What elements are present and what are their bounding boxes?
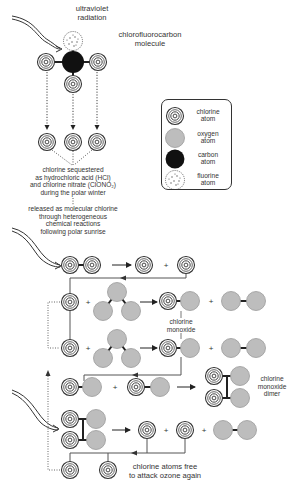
dimer-line1: chlorine: [252, 375, 292, 383]
legend-chlorine-line2: atom: [190, 115, 226, 122]
dimer-line2: monoxide: [252, 383, 292, 391]
chlorine-monoxide-label: chlorine monoxide: [156, 318, 206, 333]
cfc-molecule: [38, 32, 107, 93]
cfc-label: chlorofluorocarbon molecule: [104, 31, 196, 48]
svg-text:+: +: [86, 298, 91, 307]
released-line2: through heterogeneous: [23, 213, 123, 221]
sequestered-line1: chlorine sequestered: [23, 166, 123, 174]
released-line4: following polar sunrise: [23, 228, 123, 236]
freed-chlorine-atoms: [62, 462, 117, 479]
uv-label: ultraviolet radiation: [62, 5, 122, 22]
dimer-formation: +: [62, 367, 250, 408]
chlorine-atom-icon: [38, 54, 55, 71]
sequestered-line3: and chlorine nitrate (ClONO₂): [23, 181, 123, 189]
fluorine-atom-icon: [64, 32, 83, 51]
legend-oxygen-line2: atom: [190, 137, 226, 144]
released-line3: chemical reactions: [23, 220, 123, 228]
legend-item-chlorine: chlorine atom: [190, 108, 226, 123]
sequestered-line4: during the polar winter: [23, 189, 123, 197]
svg-text:+: +: [209, 344, 214, 353]
legend-carbon-line2: atom: [190, 158, 226, 165]
released-label: released as molecular chlorine through h…: [23, 205, 123, 235]
uv-radiation-arrow-2: [12, 390, 59, 432]
free-chlorine-label: chlorine atoms free to attack ozone agai…: [120, 463, 210, 480]
legend-carbon-line1: carbon: [190, 151, 226, 158]
sequestered-label: chlorine sequestered as hydrochloric aci…: [23, 166, 123, 196]
ozone-depletion-diagram: + + + + +: [0, 0, 292, 484]
carbon-atom-icon: [62, 51, 84, 73]
ozone-reaction-2: + +: [62, 330, 266, 368]
ozone-reaction-1: + +: [62, 283, 266, 321]
svg-text:+: +: [209, 297, 214, 306]
dimer-photolysis: + +: [62, 410, 257, 450]
svg-text:+: +: [202, 426, 207, 435]
svg-text:+: +: [86, 344, 91, 353]
svg-text:+: +: [164, 261, 169, 270]
legend-oxygen-line1: oxygen: [190, 130, 226, 137]
chlorine-atom-icon: [65, 76, 82, 93]
chlorine-monoxide-line2: monoxide: [156, 326, 206, 334]
released-line1: released as molecular chlorine: [23, 205, 123, 213]
sequestered-line2: as hydrochloric acid (HCl): [23, 174, 123, 182]
uv-label-line2: radiation: [62, 14, 122, 23]
legend-item-carbon: carbon atom: [190, 151, 226, 166]
svg-text:+: +: [164, 426, 169, 435]
free-chlorine-atoms: [39, 134, 106, 151]
feedback-loop: [48, 302, 60, 470]
cfc-label-line2: molecule: [104, 40, 196, 49]
chlorine-atom-icon: [90, 54, 107, 71]
legend-item-oxygen: oxygen atom: [190, 130, 226, 145]
dimer-line3: dimer: [252, 390, 292, 398]
legend-chlorine-line1: chlorine: [190, 108, 226, 115]
legend-item-fluorine: fluorine atom: [190, 172, 226, 187]
cl2-photolysis: +: [62, 257, 195, 274]
svg-text:+: +: [113, 383, 118, 392]
free-chlorine-line2: to attack ozone again: [120, 472, 210, 481]
legend-fluorine-line1: fluorine: [190, 172, 226, 179]
chlorine-monoxide-line1: chlorine: [156, 318, 206, 326]
legend-fluorine-line2: atom: [190, 179, 226, 186]
dimer-label: chlorine monoxide dimer: [252, 375, 292, 398]
uv-radiation-arrow: [12, 16, 62, 52]
